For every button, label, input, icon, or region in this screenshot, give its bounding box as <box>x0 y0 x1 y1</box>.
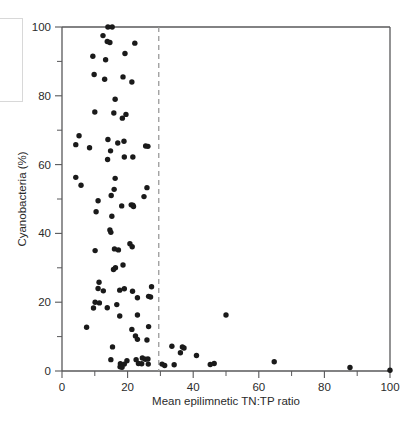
data-point <box>169 344 174 349</box>
data-point <box>139 361 144 366</box>
data-point <box>100 33 105 38</box>
data-point <box>144 185 149 190</box>
data-point <box>92 248 97 253</box>
data-point <box>76 133 81 138</box>
x-tick-label: 40 <box>187 381 200 393</box>
data-point <box>121 139 126 144</box>
x-tick-label: 20 <box>121 381 134 393</box>
data-point <box>78 183 83 188</box>
data-point <box>131 204 136 209</box>
data-point <box>91 305 96 310</box>
data-point <box>194 353 199 358</box>
data-point <box>111 267 116 272</box>
data-point <box>115 140 120 145</box>
x-axis-tick-labels: 020406080100 <box>59 381 400 393</box>
data-point <box>109 214 114 219</box>
data-point <box>96 280 101 285</box>
y-axis-ticks <box>55 27 62 371</box>
x-tick-label: 100 <box>380 381 399 393</box>
y-tick-label: 60 <box>38 159 51 171</box>
cyanobacteria-vs-tntp-scatter-chart: 020406080100 020406080100 Mean epilimnet… <box>0 0 420 421</box>
data-point <box>132 40 137 45</box>
x-axis-title: Mean epilimnetic TN:TP ratio <box>152 395 300 407</box>
data-point <box>102 77 107 82</box>
y-tick-label: 20 <box>38 296 51 308</box>
data-point <box>95 198 100 203</box>
data-point <box>90 54 95 59</box>
x-axis-ticks <box>62 371 390 378</box>
data-point <box>117 287 122 292</box>
scatter-plot-figure: 020406080100 020406080100 Mean epilimnet… <box>0 0 420 421</box>
data-point <box>129 79 134 84</box>
data-point <box>101 288 106 293</box>
data-point <box>120 74 125 79</box>
data-point <box>108 148 113 153</box>
data-point <box>73 142 78 147</box>
data-point <box>122 286 127 291</box>
y-axis-title: Cyanobacteria (%) <box>16 151 28 246</box>
data-point <box>148 294 153 299</box>
data-point <box>93 209 98 214</box>
data-point <box>91 72 96 77</box>
data-point <box>146 361 151 366</box>
data-point <box>97 300 102 305</box>
data-point <box>73 175 78 180</box>
data-point <box>347 365 352 370</box>
y-tick-label: 100 <box>32 21 51 33</box>
data-point <box>211 361 216 366</box>
data-point <box>117 313 122 318</box>
data-point <box>87 145 92 150</box>
data-point <box>105 157 110 162</box>
data-point <box>109 24 114 29</box>
data-point <box>108 230 113 235</box>
data-point <box>130 154 135 159</box>
data-point <box>272 359 277 364</box>
data-point <box>107 40 112 45</box>
plot-frame <box>62 27 390 371</box>
data-point <box>145 144 150 149</box>
data-point <box>135 295 140 300</box>
data-point <box>144 337 149 342</box>
data-point <box>146 324 151 329</box>
data-point <box>119 365 124 370</box>
data-point <box>129 327 134 332</box>
data-point <box>122 51 127 56</box>
data-point <box>114 302 119 307</box>
data-point <box>108 357 113 362</box>
data-point <box>178 350 183 355</box>
x-tick-label: 80 <box>318 381 331 393</box>
data-point <box>162 363 167 368</box>
data-point <box>103 57 108 62</box>
data-point <box>135 312 140 317</box>
data-point <box>84 325 89 330</box>
data-point <box>120 115 125 120</box>
y-axis-tick-labels: 020406080100 <box>32 21 51 377</box>
data-point <box>95 286 100 291</box>
data-point <box>119 203 124 208</box>
y-tick-label: 0 <box>45 365 51 377</box>
data-point <box>92 109 97 114</box>
y-tick-label: 80 <box>38 90 51 102</box>
data-point <box>105 137 110 142</box>
data-point <box>110 344 115 349</box>
data-point <box>129 244 134 249</box>
data-point <box>135 337 140 342</box>
data-point <box>112 97 117 102</box>
data-point <box>105 305 110 310</box>
scatter-points <box>73 24 393 373</box>
data-point <box>145 356 150 361</box>
data-point <box>223 312 228 317</box>
y-tick-label: 40 <box>38 227 51 239</box>
data-point <box>149 284 154 289</box>
data-point <box>141 194 146 199</box>
data-point <box>181 345 186 350</box>
data-point <box>387 368 392 373</box>
data-point <box>111 187 116 192</box>
data-point <box>109 193 114 198</box>
data-point <box>171 362 176 367</box>
x-tick-label: 0 <box>59 381 65 393</box>
data-point <box>130 288 135 293</box>
data-point <box>116 247 121 252</box>
data-point <box>120 262 125 267</box>
data-point <box>112 176 117 181</box>
